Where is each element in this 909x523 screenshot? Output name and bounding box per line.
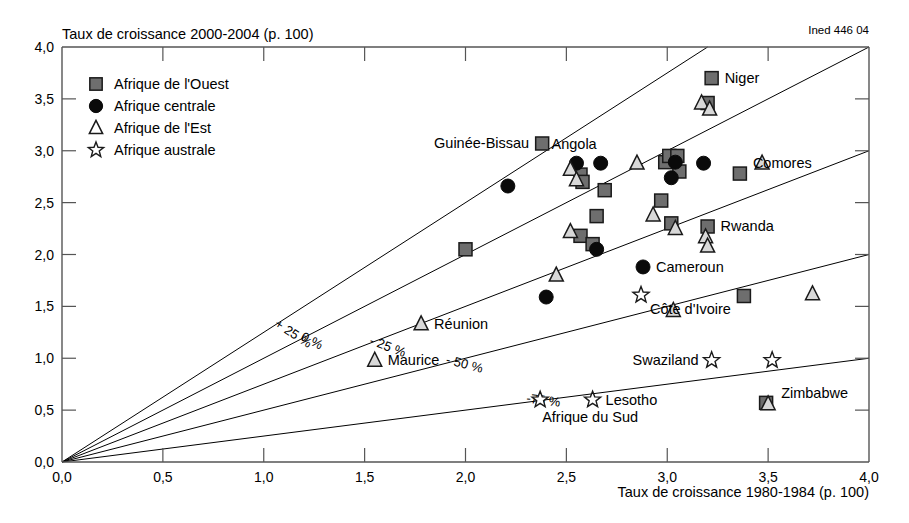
x-tick-label-6: 3,0: [658, 469, 678, 485]
legend-label-0: Afrique de l'Ouest: [114, 76, 229, 92]
data-point-star-3-2: [764, 352, 780, 367]
legend-marker-circle: [89, 99, 102, 112]
data-point-circle-1-2: [594, 156, 608, 170]
data-point-square-0-0: [459, 243, 472, 256]
point-label-angola: Angola: [552, 136, 598, 152]
y-tick-label-5: 2,5: [35, 195, 55, 211]
point-label-r-union: Réunion: [434, 316, 488, 332]
x-tick-label-2: 1,0: [254, 469, 274, 485]
data-point-circle-1-0: [501, 179, 515, 193]
y-tick-label-1: 0,5: [35, 402, 55, 418]
legend-label-3: Afrique australe: [114, 142, 216, 158]
data-point-triangle-2-15: [368, 352, 382, 366]
chart-canvas: + 25 %0 %- 25 %- 50 %-75 % 0,00,51,01,52…: [0, 0, 909, 523]
y-tick-label-7: 3,5: [35, 91, 55, 107]
legend-marker-square: [90, 78, 102, 90]
y-tick-label-2: 1,0: [35, 350, 55, 366]
data-point-square-0-14: [733, 167, 746, 180]
data-point-circle-1-4: [539, 290, 553, 304]
point-label-afrique-du-sud: Afrique du Sud: [542, 409, 638, 425]
legend-marker-star: [88, 142, 103, 157]
y-axis-title: Taux de croissance 2000-2004 (p. 100): [62, 26, 314, 42]
point-label-swaziland: Swaziland: [633, 352, 699, 368]
data-point-square-0-17: [701, 220, 714, 233]
point-label-comores: Comores: [753, 155, 812, 171]
reference-line-2: [62, 151, 869, 462]
reference-line-label-1: 0 %: [299, 329, 326, 353]
legend-label-1: Afrique centrale: [114, 98, 216, 114]
point-label-lesotho: Lesotho: [606, 392, 658, 408]
y-tick-label-6: 3,0: [35, 143, 55, 159]
point-label-rwanda: Rwanda: [721, 218, 775, 234]
x-tick-label-8: 4,0: [859, 469, 879, 485]
point-label-maurice: Maurice: [388, 352, 440, 368]
x-tick-label-3: 1,5: [355, 469, 375, 485]
scatter-chart: + 25 %0 %- 25 %- 50 %-75 % 0,00,51,01,52…: [0, 0, 909, 523]
data-point-star-3-0: [633, 286, 649, 301]
data-point-circle-1-7: [697, 156, 711, 170]
y-tick-label-0: 0,0: [35, 454, 55, 470]
data-point-square-0-15: [655, 194, 668, 207]
reference-line-label-3: - 50 %: [445, 352, 486, 376]
y-tick-label-8: 4,0: [35, 39, 55, 55]
legend-label-2: Afrique de l'Est: [114, 120, 211, 136]
data-point-circle-1-3: [590, 242, 604, 256]
point-label-guin-e-bissau: Guinée-Bissau: [434, 135, 529, 151]
data-point-square-0-1: [536, 137, 549, 150]
point-label-niger: Niger: [725, 70, 760, 86]
legend-group: Afrique de l'OuestAfrique centraleAfriqu…: [88, 76, 228, 158]
data-point-triangle-2-13: [806, 286, 820, 300]
x-axis-title: Taux de croissance 1980-1984 (p. 100): [618, 484, 870, 500]
x-tick-label-7: 3,5: [758, 469, 778, 485]
data-point-circle-1-8: [636, 260, 650, 274]
data-point-square-0-5: [590, 210, 603, 223]
x-tick-label-4: 2,0: [456, 469, 476, 485]
point-label-cameroun: Cameroun: [656, 259, 724, 275]
data-point-square-0-4: [598, 184, 611, 197]
reference-line-4: [62, 358, 869, 462]
data-point-triangle-2-4: [646, 207, 660, 221]
legend-marker-triangle: [89, 120, 102, 133]
point-label-c-te-d-ivoire: Côte d'Ivoire: [650, 301, 731, 317]
data-point-square-0-13: [705, 72, 718, 85]
x-tick-label-0: 0,0: [52, 469, 72, 485]
data-point-triangle-2-2: [630, 155, 644, 169]
point-label-zimbabwe: Zimbabwe: [781, 385, 848, 401]
data-point-star-3-1: [704, 352, 720, 367]
data-point-triangle-2-14: [414, 316, 428, 330]
data-point-circle-1-6: [664, 171, 678, 185]
x-tick-label-1: 0,5: [153, 469, 173, 485]
credit-text: Ined 446 04: [808, 24, 869, 36]
y-tick-label-4: 2,0: [35, 247, 55, 263]
y-tick-label-3: 1,5: [35, 298, 55, 314]
x-tick-label-5: 2,5: [557, 469, 577, 485]
data-point-square-0-18: [737, 290, 750, 303]
data-point-circle-1-5: [668, 155, 682, 169]
